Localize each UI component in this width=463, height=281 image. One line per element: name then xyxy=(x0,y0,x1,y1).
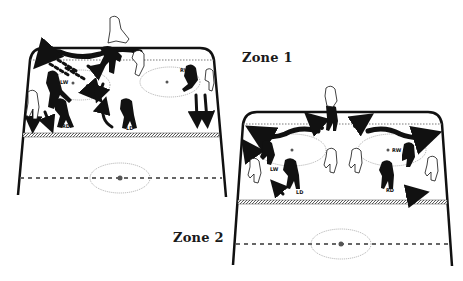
zone-2-label: Zone 2 xyxy=(173,230,224,245)
zone-2-left-wave-arrow xyxy=(258,129,318,137)
svg-text:LW: LW xyxy=(270,166,279,172)
svg-text:LD: LD xyxy=(296,189,303,195)
zone-1-blue-line xyxy=(23,133,219,137)
zone-1-player-rd: RD xyxy=(55,98,74,129)
zone-1-player-rw: RW xyxy=(180,64,198,92)
zone-2-player-rw: RW xyxy=(392,142,415,167)
zone-2-players: LW LD RW RD xyxy=(248,86,438,195)
svg-text:RW: RW xyxy=(180,67,190,73)
zone-2-center-dot xyxy=(339,242,344,247)
zone-1-center-dot xyxy=(118,176,123,181)
zone-2-blue-line xyxy=(238,200,447,204)
svg-text:RD: RD xyxy=(386,187,394,193)
zone-1-player-ld: LD xyxy=(120,98,137,131)
zone-1-wave-arrow xyxy=(43,49,140,58)
svg-text:LD: LD xyxy=(126,125,133,131)
svg-text:LW: LW xyxy=(60,79,69,85)
diagram-canvas: LW RD LD RW xyxy=(0,0,463,281)
svg-text:RD: RD xyxy=(62,123,70,129)
zone-2-player-rd: RD xyxy=(379,160,394,193)
zone-1-players: LW RD LD RW xyxy=(26,16,214,131)
svg-text:RW: RW xyxy=(392,147,402,153)
zone-2-player-lw: LW xyxy=(260,140,279,172)
zone-2-center-player xyxy=(326,105,338,131)
zone-2-arrows xyxy=(248,120,428,196)
zone-2-player-ld: LD xyxy=(283,158,303,195)
zone-2-right-wave-arrow xyxy=(368,129,428,138)
zone-1-label: Zone 1 xyxy=(242,50,293,65)
